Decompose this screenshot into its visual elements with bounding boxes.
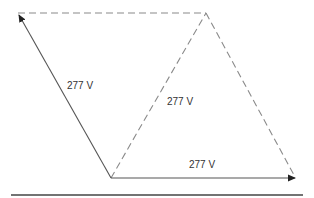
diagram-canvas xyxy=(0,0,314,198)
right-dashed-line xyxy=(206,13,294,175)
bottom-voltage-label: 277 V xyxy=(189,160,215,170)
left-voltage-label: 277 V xyxy=(67,81,93,91)
middle-voltage-label: 277 V xyxy=(167,97,193,107)
left-phasor-arrow xyxy=(19,15,111,178)
phasor-diagram: 277 V 277 V 277 V xyxy=(0,0,314,198)
